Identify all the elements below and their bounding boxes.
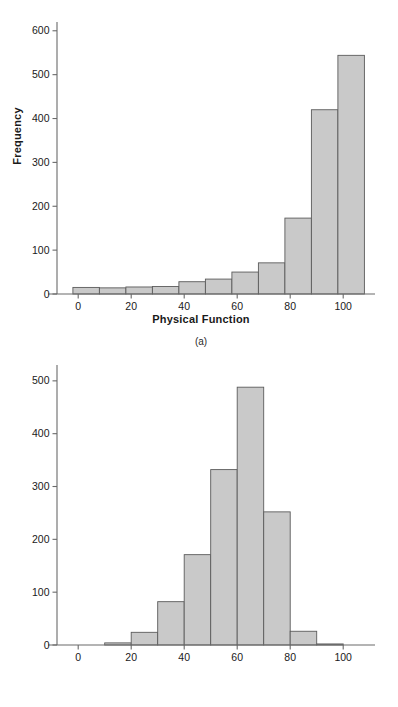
chart-a-bar xyxy=(285,218,312,294)
chart-a-x-tick-label: 60 xyxy=(231,300,243,310)
chart-a-bar xyxy=(179,282,206,294)
chart-b-bar xyxy=(158,602,185,645)
chart-a-bar xyxy=(152,287,179,294)
chart-a-y-tick-label: 400 xyxy=(32,112,50,124)
histogram-figure: 0100200300400500600020406080100 Frequenc… xyxy=(0,0,398,707)
chart-a-bar xyxy=(311,110,338,294)
chart-a-bar xyxy=(126,287,152,294)
chart-a-x-tick-label: 100 xyxy=(334,300,352,310)
chart-b-bar xyxy=(211,470,238,645)
chart-b-y-tick-label: 500 xyxy=(32,374,50,386)
chart-b-x-tick-label: 100 xyxy=(334,651,352,663)
chart-b-x-tick-label: 60 xyxy=(231,651,243,663)
chart-b-x-tick-label: 80 xyxy=(284,651,296,663)
chart-b-y-tick-label: 200 xyxy=(32,533,50,545)
chart-a-y-tick-label: 500 xyxy=(32,68,50,80)
chart-a-y-axis-label: Frequency xyxy=(11,101,23,171)
chart-a-bar xyxy=(99,288,126,294)
chart-a-bars xyxy=(73,55,365,294)
chart-a-y-tick-label: 300 xyxy=(32,156,50,168)
chart-a-y-ticks: 0100200300400500600 xyxy=(32,24,57,299)
chart-a-bar xyxy=(205,279,232,294)
chart-a-bar xyxy=(258,263,285,294)
chart-b-bar xyxy=(237,387,264,645)
chart-b-bar xyxy=(184,555,211,645)
panel-a-caption: (a) xyxy=(36,336,366,347)
chart-b-y-tick-label: 400 xyxy=(32,427,50,439)
panel-a-physical-function: 0100200300400500600020406080100 Frequenc… xyxy=(0,0,398,353)
chart-a-bar xyxy=(232,272,259,294)
chart-a-y-tick-label: 200 xyxy=(32,200,50,212)
chart-a-bar xyxy=(338,55,365,294)
chart-a-x-ticks: 020406080100 xyxy=(75,294,352,310)
chart-b-x-tick-label: 0 xyxy=(75,651,81,663)
chart-b-y-tick-label: 0 xyxy=(44,639,50,651)
chart-b-y-tick-label: 100 xyxy=(32,586,50,598)
chart-a-canvas: 0100200300400500600020406080100 xyxy=(0,0,398,310)
chart-a-y-tick-label: 600 xyxy=(32,24,50,36)
chart-b-x-ticks: 020406080100 xyxy=(75,645,352,663)
chart-a-x-tick-label: 20 xyxy=(125,300,137,310)
chart-b-canvas: 0100200300400500020406080100 xyxy=(0,353,398,663)
chart-a-y-tick-label: 0 xyxy=(44,288,50,300)
chart-a-x-tick-label: 0 xyxy=(75,300,81,310)
chart-a-x-axis-label: Physical Function xyxy=(36,313,366,325)
chart-b-y-ticks: 0100200300400500 xyxy=(32,374,57,650)
chart-a-x-tick-label: 80 xyxy=(284,300,296,310)
chart-b-x-tick-label: 20 xyxy=(125,651,137,663)
chart-b-bar xyxy=(264,512,291,645)
chart-b-x-tick-label: 40 xyxy=(178,651,190,663)
chart-b-bar xyxy=(290,631,317,645)
chart-b-bar xyxy=(131,632,158,645)
panel-b-vitality: 0100200300400500020406080100 Frequency V… xyxy=(0,353,398,707)
chart-b-y-tick-label: 300 xyxy=(32,480,50,492)
chart-a-x-tick-label: 40 xyxy=(178,300,190,310)
chart-a-bar xyxy=(73,287,100,294)
chart-b-bars xyxy=(105,387,344,645)
chart-a-y-tick-label: 100 xyxy=(32,244,50,256)
